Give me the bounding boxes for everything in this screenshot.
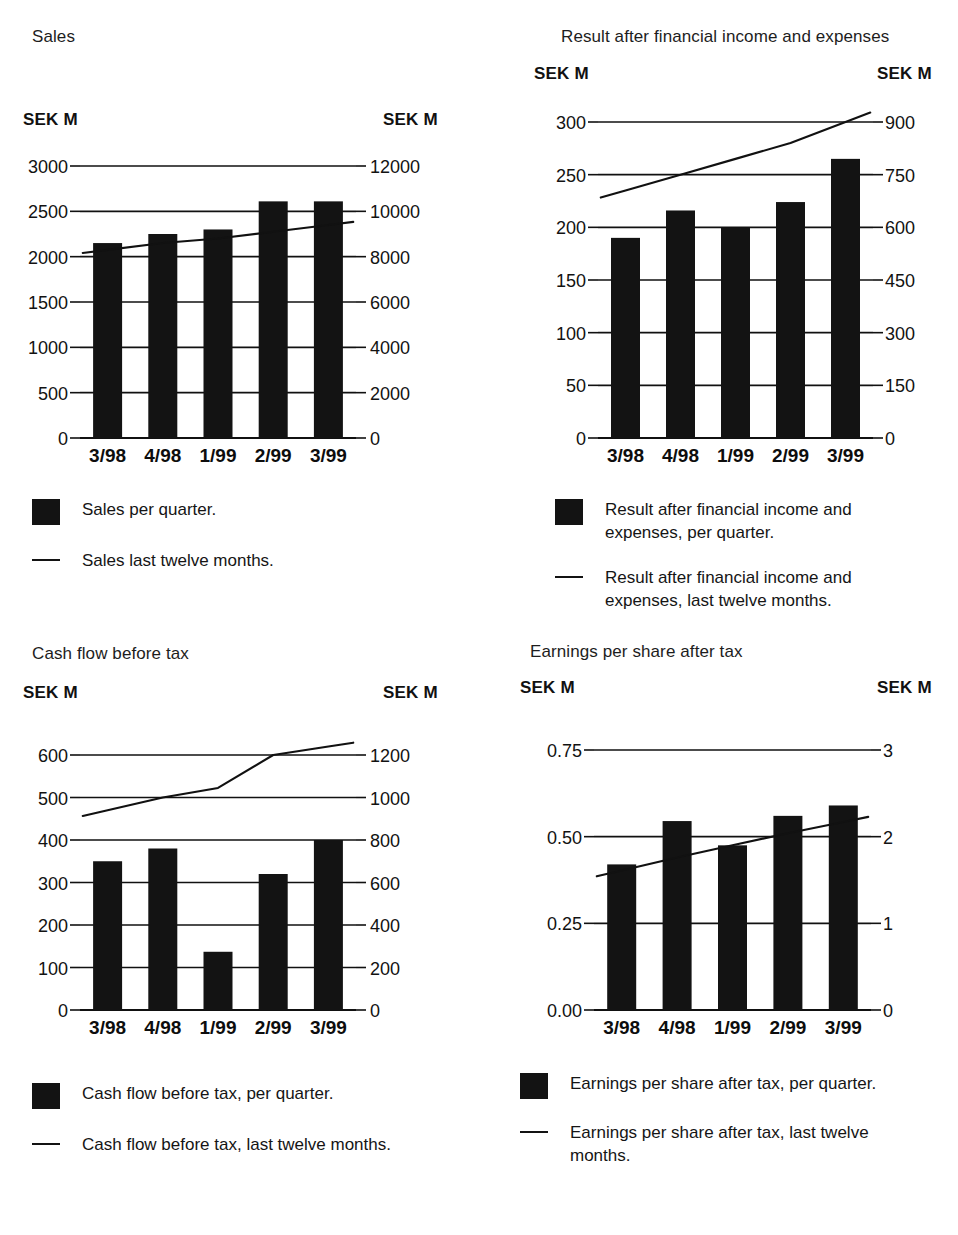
right-axis-tick: 1200 bbox=[370, 746, 410, 766]
x-axis-tick: 2/99 bbox=[255, 1017, 292, 1038]
bar bbox=[718, 845, 747, 1010]
right-axis-tick: 6000 bbox=[370, 293, 410, 313]
bar bbox=[829, 805, 858, 1010]
legend-row-line: Result after financial income and expens… bbox=[555, 566, 852, 612]
left-axis-tick: 1000 bbox=[28, 338, 68, 358]
x-axis-tick: 4/98 bbox=[659, 1017, 696, 1038]
right-axis-tick: 600 bbox=[370, 874, 400, 894]
left-axis-tick: 300 bbox=[38, 874, 68, 894]
chart-panel-cashflow: Cash flow before tax SEK M SEK M 0010020… bbox=[0, 620, 479, 1235]
right-axis-tick: 750 bbox=[885, 166, 915, 186]
left-axis-tick: 50 bbox=[566, 376, 586, 396]
bar bbox=[93, 861, 122, 1010]
left-axis-tick: 2500 bbox=[28, 202, 68, 222]
bar bbox=[259, 874, 288, 1010]
legend-row-bar: Cash flow before tax, per quarter. bbox=[32, 1082, 391, 1109]
legend-row-bar: Earnings per share after tax, per quarte… bbox=[520, 1072, 876, 1099]
left-axis-tick: 200 bbox=[556, 218, 586, 238]
x-axis-tick: 2/99 bbox=[772, 445, 809, 466]
right-axis-tick: 900 bbox=[885, 113, 915, 133]
legend-row-bar: Sales per quarter. bbox=[32, 498, 274, 525]
left-axis-tick: 500 bbox=[38, 789, 68, 809]
legend-line-swatch-icon bbox=[520, 1122, 548, 1142]
right-axis-tick: 450 bbox=[885, 271, 915, 291]
left-axis-tick: 2000 bbox=[28, 248, 68, 268]
report-charts-page: Sales SEK M SEK M 0050020001000400015006… bbox=[0, 0, 958, 1235]
right-axis-tick: 1 bbox=[883, 914, 893, 934]
right-axis-tick: 400 bbox=[370, 916, 400, 936]
left-axis-tick: 3000 bbox=[28, 157, 68, 177]
left-axis-tick: 100 bbox=[556, 324, 586, 344]
bar bbox=[148, 849, 177, 1011]
left-axis-tick: 150 bbox=[556, 271, 586, 291]
chart-panel-result: Result after financial income and expens… bbox=[479, 0, 958, 620]
x-axis-tick: 3/98 bbox=[89, 445, 126, 466]
x-axis-tick: 2/99 bbox=[255, 445, 292, 466]
bar bbox=[776, 202, 805, 438]
left-axis-tick: 1500 bbox=[28, 293, 68, 313]
x-axis-tick: 2/99 bbox=[769, 1017, 806, 1038]
right-axis-tick: 12000 bbox=[370, 157, 420, 177]
bar bbox=[666, 210, 695, 438]
left-axis-tick: 0.50 bbox=[547, 828, 582, 848]
x-axis-tick: 3/99 bbox=[825, 1017, 862, 1038]
right-axis-tick: 800 bbox=[370, 831, 400, 851]
right-axis-tick: 2 bbox=[883, 828, 893, 848]
left-axis-tick: 400 bbox=[38, 831, 68, 851]
x-axis-tick: 1/99 bbox=[200, 445, 237, 466]
bar bbox=[773, 816, 802, 1010]
right-axis-tick: 0 bbox=[370, 429, 380, 449]
legend-bar-swatch-icon bbox=[520, 1073, 548, 1099]
legend-line-label: Cash flow before tax, last twelve months… bbox=[82, 1133, 391, 1156]
left-axis-tick: 0 bbox=[58, 1001, 68, 1021]
legend-bar-label: Cash flow before tax, per quarter. bbox=[82, 1082, 333, 1105]
bar bbox=[204, 952, 233, 1010]
bar bbox=[607, 864, 636, 1010]
trend-line bbox=[601, 113, 871, 198]
left-axis-tick: 500 bbox=[38, 384, 68, 404]
bar bbox=[314, 840, 343, 1010]
chart-legend-eps: Earnings per share after tax, per quarte… bbox=[520, 1072, 876, 1167]
chart-legend-cashflow: Cash flow before tax, per quarter. Cash … bbox=[32, 1082, 391, 1156]
right-axis-tick: 8000 bbox=[370, 248, 410, 268]
x-axis-tick: 4/98 bbox=[144, 1017, 181, 1038]
legend-bar-swatch-icon bbox=[555, 499, 583, 525]
right-axis-tick: 300 bbox=[885, 324, 915, 344]
x-axis-tick: 1/99 bbox=[200, 1017, 237, 1038]
bar bbox=[721, 227, 750, 438]
left-axis-tick: 0.00 bbox=[547, 1001, 582, 1021]
legend-line-label: Earnings per share after tax, last twelv… bbox=[570, 1121, 869, 1167]
chart-plot-eps: 0.0000.2510.5020.7533/984/981/992/993/99 bbox=[479, 620, 958, 1070]
left-axis-tick: 250 bbox=[556, 166, 586, 186]
x-axis-tick: 3/99 bbox=[310, 445, 347, 466]
x-axis-tick: 4/98 bbox=[662, 445, 699, 466]
left-axis-tick: 0 bbox=[58, 429, 68, 449]
bar bbox=[611, 238, 640, 438]
legend-row-line: Sales last twelve months. bbox=[32, 549, 274, 572]
x-axis-tick: 3/98 bbox=[607, 445, 644, 466]
right-axis-tick: 0 bbox=[883, 1001, 893, 1021]
x-axis-tick: 4/98 bbox=[144, 445, 181, 466]
legend-row-line: Cash flow before tax, last twelve months… bbox=[32, 1133, 391, 1156]
legend-bar-swatch-icon bbox=[32, 1083, 60, 1109]
trend-line bbox=[83, 743, 353, 816]
x-axis-tick: 3/99 bbox=[827, 445, 864, 466]
legend-line-swatch-icon bbox=[32, 550, 60, 570]
legend-line-label: Result after financial income and expens… bbox=[605, 566, 852, 612]
chart-plot-cashflow: 0010020020040030060040080050010006001200… bbox=[0, 620, 479, 1070]
legend-line-label: Sales last twelve months. bbox=[82, 549, 274, 572]
bar bbox=[148, 234, 177, 438]
chart-plot-result: 00501501003001504502006002507503009003/9… bbox=[479, 0, 958, 490]
chart-legend-result: Result after financial income and expens… bbox=[555, 498, 852, 612]
legend-line-swatch-icon bbox=[32, 1134, 60, 1154]
x-axis-tick: 3/99 bbox=[310, 1017, 347, 1038]
chart-plot-sales: 0050020001000400015006000200080002500100… bbox=[0, 0, 479, 490]
right-axis-tick: 600 bbox=[885, 218, 915, 238]
x-axis-tick: 3/98 bbox=[603, 1017, 640, 1038]
bar bbox=[93, 243, 122, 438]
left-axis-tick: 200 bbox=[38, 916, 68, 936]
left-axis-tick: 0 bbox=[576, 429, 586, 449]
bar bbox=[259, 201, 288, 438]
legend-bar-label: Earnings per share after tax, per quarte… bbox=[570, 1072, 876, 1095]
legend-row-bar: Result after financial income and expens… bbox=[555, 498, 852, 544]
